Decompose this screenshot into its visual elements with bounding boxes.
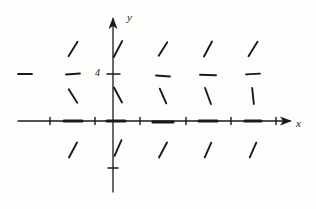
slope-segment xyxy=(66,74,80,75)
slope-segment xyxy=(69,42,78,56)
slope-segment xyxy=(200,75,216,76)
slope-segment xyxy=(252,88,254,104)
slope-segment xyxy=(156,76,170,77)
axes-group xyxy=(18,17,292,192)
slope-segment xyxy=(115,140,122,156)
slope-segment xyxy=(250,143,257,158)
slope-segment xyxy=(160,89,167,104)
slope-segment xyxy=(205,143,212,158)
y-axis-label: y xyxy=(127,12,132,23)
slope-segments-layer xyxy=(18,41,261,157)
slope-segment xyxy=(246,74,260,75)
slope-segment xyxy=(69,89,77,103)
slope-field-figure: y x 4 xyxy=(0,0,316,209)
plot-canvas xyxy=(0,0,316,209)
slope-segment xyxy=(205,88,211,104)
slope-segment xyxy=(69,142,77,157)
slope-segment xyxy=(114,87,122,102)
slope-segment xyxy=(159,142,167,157)
x-axis-label: x xyxy=(296,118,301,129)
slope-segment xyxy=(249,42,258,56)
slope-segment xyxy=(114,41,122,57)
slope-segment xyxy=(159,42,167,56)
y-tick-label-4: 4 xyxy=(95,68,100,78)
slope-segment xyxy=(204,41,212,56)
